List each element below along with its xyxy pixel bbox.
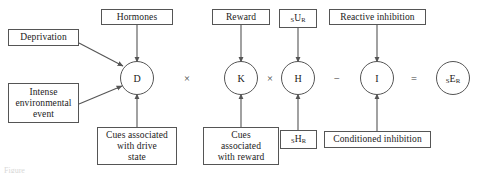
box-cues-drive-state-label: Cues associated with drive state	[106, 130, 168, 163]
operator-times-1-symbol: ×	[184, 73, 190, 84]
box-s-u-r-label: SUR	[290, 13, 305, 24]
operator-equals-symbol: =	[411, 73, 417, 84]
arrow-deprivation-to-d	[79, 43, 123, 66]
box-conditioned-inhibition[interactable]: Conditioned inhibition	[324, 131, 431, 148]
node-k[interactable]: K	[224, 61, 258, 95]
figure-canvas: Hormones Reward SUR Reactive inhibition …	[0, 0, 481, 173]
arrow-intense-event-to-d	[79, 86, 122, 104]
operator-equals: =	[405, 69, 423, 87]
box-s-h-r-label: SHR	[291, 134, 306, 145]
node-i-label: I	[375, 73, 378, 84]
box-reward[interactable]: Reward	[212, 9, 270, 25]
box-reactive-inhibition-label: Reactive inhibition	[340, 12, 414, 23]
operator-times-2: ×	[261, 69, 279, 87]
operator-minus: −	[328, 69, 346, 87]
box-hormones-label: Hormones	[117, 12, 157, 23]
box-cues-drive-state[interactable]: Cues associated with drive state	[97, 127, 177, 165]
box-intense-environmental-event-label: Intense environmental event	[15, 87, 71, 120]
node-d-label: D	[133, 73, 140, 84]
node-s-e-r-label: SER	[446, 73, 460, 84]
box-deprivation[interactable]: Deprivation	[8, 29, 79, 46]
node-i[interactable]: I	[360, 61, 394, 95]
node-s-e-r[interactable]: SER	[436, 61, 470, 95]
box-conditioned-inhibition-label: Conditioned inhibition	[333, 134, 422, 145]
box-deprivation-label: Deprivation	[20, 32, 66, 43]
box-reward-label: Reward	[226, 12, 256, 23]
node-h[interactable]: H	[281, 61, 315, 95]
node-h-label: H	[294, 73, 301, 84]
operator-minus-symbol: −	[334, 73, 340, 84]
node-d[interactable]: D	[120, 61, 154, 95]
box-intense-environmental-event[interactable]: Intense environmental event	[8, 83, 79, 123]
operator-times-2-symbol: ×	[267, 73, 273, 84]
box-cues-reward-label: Cues associated with reward	[218, 130, 265, 163]
box-reactive-inhibition[interactable]: Reactive inhibition	[329, 9, 426, 25]
operator-times-1: ×	[178, 69, 196, 87]
figure-caption-partial: Figure	[4, 166, 25, 173]
box-hormones[interactable]: Hormones	[101, 9, 173, 25]
box-s-h-r[interactable]: SHR	[280, 130, 317, 149]
box-cues-reward[interactable]: Cues associated with reward	[203, 127, 279, 165]
box-s-u-r[interactable]: SUR	[279, 9, 317, 28]
node-k-label: K	[237, 73, 244, 84]
